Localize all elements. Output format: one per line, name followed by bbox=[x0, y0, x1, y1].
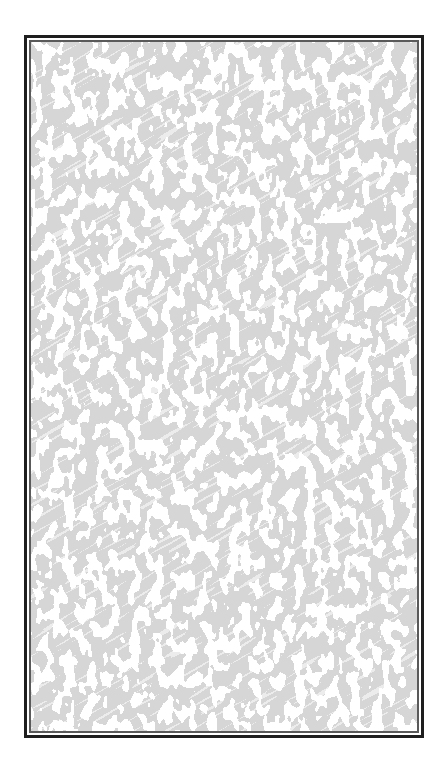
panel-inner-frame bbox=[29, 40, 419, 733]
noise-texture bbox=[31, 42, 417, 731]
panel-outer-frame bbox=[24, 35, 424, 738]
